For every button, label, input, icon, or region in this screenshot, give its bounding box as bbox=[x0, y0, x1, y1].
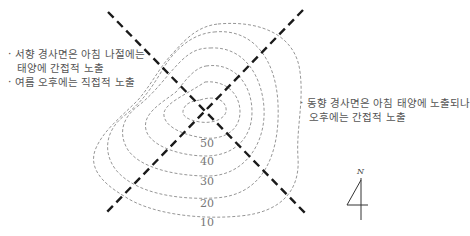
contour-label-40: 40 bbox=[200, 155, 214, 168]
clipped-caption bbox=[120, 0, 300, 2]
contour-label-10: 10 bbox=[200, 216, 214, 229]
contour-50 bbox=[164, 82, 240, 138]
north-label: N bbox=[356, 167, 365, 176]
north-arrow: N bbox=[347, 167, 368, 220]
west-note-line-2: 태양에 간접적 노출 bbox=[8, 61, 145, 75]
contour-label-30: 30 bbox=[200, 175, 214, 188]
contour-label-50: 50 bbox=[200, 137, 214, 150]
contour-labels: 50 40 30 20 10 bbox=[200, 137, 214, 229]
east-note-line-1: · 동향 경사면은 아침 태양에 노출되나 bbox=[300, 96, 470, 110]
north-arrow-icon bbox=[347, 178, 368, 220]
east-slope-note: · 동향 경사면은 아침 태양에 노출되나 오후에는 간접적 노출 bbox=[300, 96, 470, 124]
contour-label-20: 20 bbox=[200, 197, 214, 210]
west-note-line-1: · 서향 경사면은 아침 나절에는 bbox=[8, 47, 145, 61]
west-slope-note: · 서향 경사면은 아침 나절에는 태양에 간접적 노출 · 여름 오후에는 직… bbox=[8, 47, 145, 89]
east-note-line-2: 오후에는 간접적 노출 bbox=[300, 110, 470, 124]
west-note-line-3: · 여름 오후에는 직접적 노출 bbox=[8, 75, 145, 89]
